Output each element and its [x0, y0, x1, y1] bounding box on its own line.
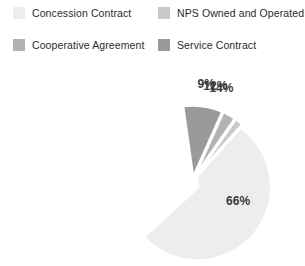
chart-legend: Concession Contract NPS Owned and Operat… [0, 0, 305, 68]
legend-item-nps-owned-and-operated[interactable]: NPS Owned and Operated [158, 7, 304, 19]
legend-label-service-contract: Service Contract [177, 39, 256, 51]
legend-label-nps-owned-and-operated: NPS Owned and Operated [177, 7, 304, 19]
pie-slice-label: 66% [226, 194, 250, 208]
pie-slice-label: 9% [197, 77, 215, 91]
legend-item-cooperative-agreement[interactable]: Cooperative Agreement [13, 39, 144, 51]
legend-swatch-nps-owned-and-operated [158, 7, 170, 19]
legend-label-cooperative-agreement: Cooperative Agreement [32, 39, 144, 51]
legend-swatch-service-contract [158, 39, 170, 51]
pie-chart-figure: Concession Contract NPS Owned and Operat… [0, 0, 305, 266]
pie-slice-group [143, 105, 271, 261]
legend-item-concession-contract[interactable]: Concession Contract [13, 7, 131, 19]
legend-label-concession-contract: Concession Contract [32, 7, 131, 19]
legend-swatch-concession-contract [13, 7, 25, 19]
pie-plot-area: 66%14%12%9% [0, 62, 305, 266]
legend-item-service-contract[interactable]: Service Contract [158, 39, 256, 51]
pie-svg: 66%14%12%9% [0, 62, 305, 266]
legend-swatch-cooperative-agreement [13, 39, 25, 51]
